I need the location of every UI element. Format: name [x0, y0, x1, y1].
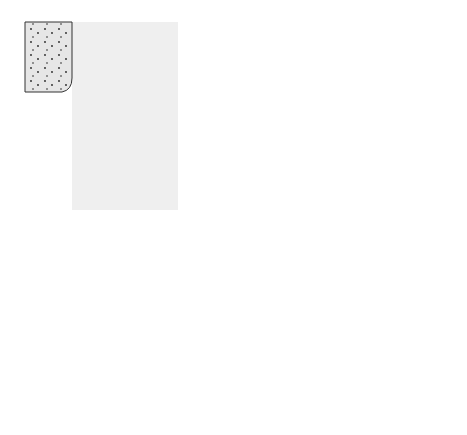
- renal-acid-excretion-diagram: [0, 0, 467, 435]
- left-wall-cell-top: [25, 22, 72, 92]
